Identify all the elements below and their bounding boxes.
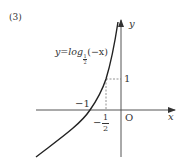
graph-canvas [0,0,186,163]
tick-label-x-minus-half: 1 2 [102,114,109,133]
tick-label-x-minus-half-sign: − [93,118,101,128]
x-axis-label: x [168,112,174,122]
y-axis-label: y [129,19,135,29]
equation-prefix: y=log [55,46,83,57]
origin-label: O [125,113,133,123]
tick-label-y-1: 1 [124,74,130,84]
tick-label-x-minus-1: −1 [75,99,90,109]
equation-suffix: (−x) [87,46,108,57]
equation-label: y=log12(−x) [55,47,108,65]
problem-number: (3) [9,13,22,22]
